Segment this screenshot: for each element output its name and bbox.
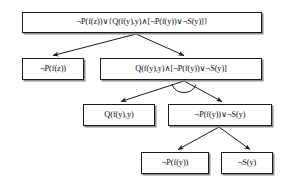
node-disjunction: ¬P(f(y))∨¬S(y) [168,104,272,126]
node-disjunction-formula: ¬P(f(y))∨¬S(y) [194,111,247,119]
node-root-formula: ¬P(f(z))∨{Q(f(y),y)∧[¬P(f(y))∨¬S(y)]} [75,18,208,26]
node-not-s-y: ¬S(y) [221,152,273,174]
edge-disjunction-to-not-s-y [219,127,250,150]
node-not-s-y-formula: ¬S(y) [237,159,257,167]
node-conjunction: Q(f(y),y)∧[¬P(f(y))∨¬S(y)] [100,58,262,80]
node-root: ¬P(f(z))∨{Q(f(y),y)∧[¬P(f(y))∨¬S(y)]} [22,12,262,33]
node-not-p-fz: ¬P(f(z)) [22,58,84,80]
node-not-p-fz-formula: ¬P(f(z)) [39,65,67,73]
node-q-fy-y-formula: Q(f(y),y) [103,111,134,119]
node-not-p-fy-formula: ¬P(f(y)) [161,159,189,167]
node-not-p-fy: ¬P(f(y)) [141,152,209,174]
edge-disjunction-to-not-p-fy [178,127,219,150]
edge-conjunction-to-q-fy-y [121,81,184,102]
node-q-fy-y: Q(f(y),y) [83,104,155,126]
edge-root-to-conjunction [136,34,184,56]
edge-root-to-not-p-fz [53,34,136,56]
tableau-diagram: ¬P(f(z))∨{Q(f(y),y)∧[¬P(f(y))∨¬S(y)]} ¬P… [0,0,288,192]
node-conjunction-formula: Q(f(y),y)∧[¬P(f(y))∨¬S(y)] [134,65,227,73]
